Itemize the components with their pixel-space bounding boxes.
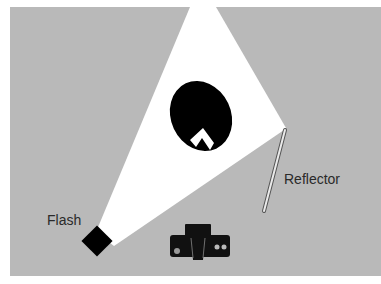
- reflector-label: Reflector: [284, 171, 340, 187]
- flash-label: Flash: [47, 212, 81, 228]
- lighting-diagram: [0, 0, 381, 284]
